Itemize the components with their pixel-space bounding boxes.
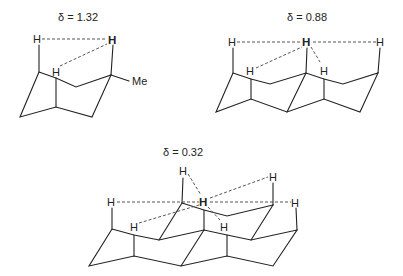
h-atom: H [107, 196, 115, 208]
h-atom: H [33, 33, 41, 45]
h-atom-probe: H [199, 196, 207, 208]
h-atom-probe: H [108, 34, 116, 46]
shift-label-3: δ = 0.32 [163, 146, 203, 158]
h-atom: H [320, 65, 328, 77]
h-atom: H [246, 65, 254, 77]
structures-svg: δ = 1.32 H H H Me δ = 0.88 H [0, 0, 403, 276]
interaction-line [60, 44, 107, 66]
interaction-line [256, 47, 302, 68]
h-atom: H [220, 221, 228, 233]
structure-1: δ = 1.32 H H H Me [20, 11, 147, 117]
interaction-line [139, 205, 199, 223]
interaction-line [188, 174, 201, 195]
nmr-shift-diagram: δ = 1.32 H H H Me δ = 0.88 H [0, 0, 403, 276]
interaction-line [210, 177, 268, 198]
ring-bonds-1 [20, 45, 129, 117]
h-atom: H [179, 165, 187, 177]
h-atom: H [376, 36, 384, 48]
h-atom: H [130, 221, 138, 233]
h-atom-probe: H [302, 36, 310, 48]
methyl-label: Me [132, 75, 147, 87]
h-atom: H [269, 171, 277, 183]
h-atom: H [52, 66, 60, 78]
h-atom: H [291, 197, 299, 209]
structure-2: δ = 0.88 H H H H H [216, 11, 384, 112]
ring-bonds-2 [216, 48, 380, 112]
interaction-line [311, 47, 320, 62]
h-atom: H [228, 36, 236, 48]
shift-label-2: δ = 0.88 [287, 11, 327, 23]
ring-bonds-3 [89, 178, 297, 266]
shift-label-1: δ = 1.32 [58, 11, 98, 23]
structure-3: δ = 0.32 H H H H H H H [89, 146, 299, 266]
